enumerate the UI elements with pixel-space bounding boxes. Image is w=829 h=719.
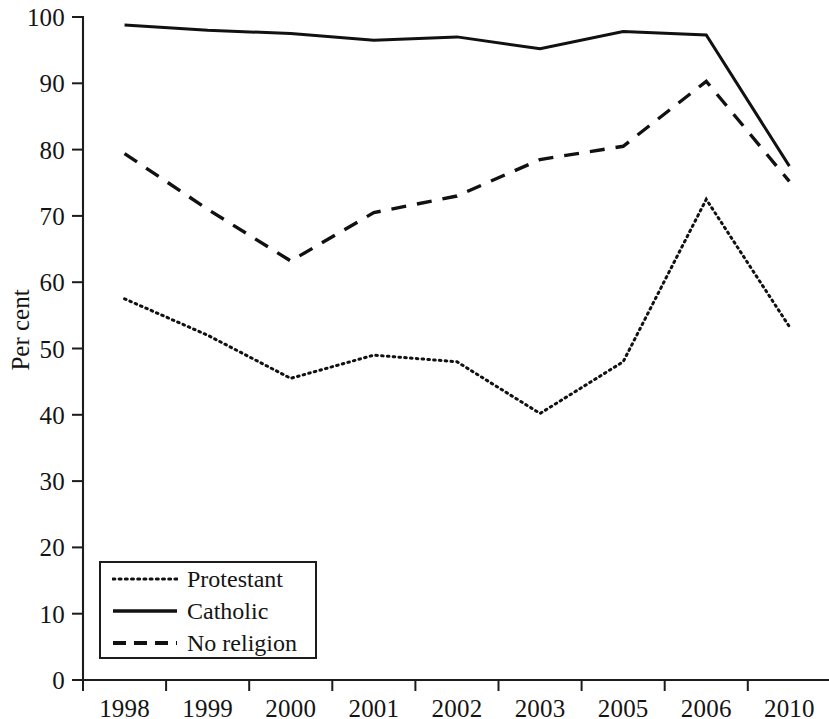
x-axis-tick-label: 2006 <box>658 696 754 719</box>
legend-line-sample-icon <box>112 604 178 618</box>
y-axis-tick-label: 70 <box>5 204 65 229</box>
legend-item[interactable]: Catholic <box>101 595 315 627</box>
y-axis-tick-label: 30 <box>5 469 65 494</box>
x-axis-tick-label: 2005 <box>575 696 671 719</box>
series-line-protestant <box>125 199 790 413</box>
data-series <box>125 25 790 414</box>
legend-item-label: Catholic <box>178 599 268 623</box>
legend-item[interactable]: Protestant <box>101 563 315 595</box>
y-axis-title: Per cent <box>7 270 35 390</box>
y-axis-tick-label: 0 <box>5 668 65 693</box>
y-axis-tick-label: 100 <box>5 5 65 30</box>
y-axis-tick-label: 80 <box>5 138 65 163</box>
y-axis-tick-label: 40 <box>5 403 65 428</box>
y-axis-tick-label: 90 <box>5 71 65 96</box>
legend-item-label: Protestant <box>178 567 283 591</box>
x-axis-tick-label: 1998 <box>77 696 173 719</box>
x-axis-tick-label: 2000 <box>243 696 339 719</box>
x-axis-tick-label: 2001 <box>326 696 422 719</box>
y-axis-tick-label: 10 <box>5 602 65 627</box>
x-axis-tick-label: 1999 <box>160 696 256 719</box>
x-axis-tick-label: 2002 <box>409 696 505 719</box>
series-line-no-religion <box>125 81 790 261</box>
legend-line-sample-icon <box>112 572 178 586</box>
x-axis-tick-label: 2010 <box>741 696 829 719</box>
legend-item[interactable]: No religion <box>101 627 315 659</box>
legend-item-label: No religion <box>178 631 297 655</box>
line-chart: 0102030405060708090100 19981999200020012… <box>0 0 829 719</box>
y-axis-tick-label: 20 <box>5 535 65 560</box>
legend-line-sample-icon <box>112 636 178 650</box>
x-axis-tick-label: 2003 <box>492 696 588 719</box>
legend: ProtestantCatholicNo religion <box>99 561 317 659</box>
